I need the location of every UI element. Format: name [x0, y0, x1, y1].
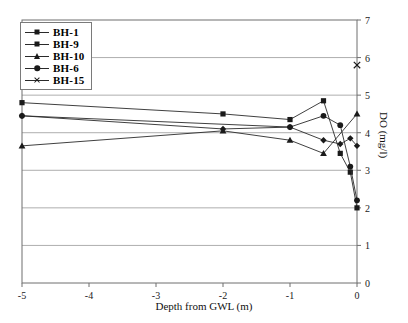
data-point-circle — [347, 164, 353, 170]
data-point-square — [220, 111, 225, 116]
legend-item-bh-15: BH-15 — [25, 74, 85, 86]
series-bh-10 — [19, 111, 361, 156]
legend-marker-diamond-icon — [25, 26, 49, 38]
legend-marker-cross-icon — [25, 74, 49, 86]
series-line — [22, 116, 357, 146]
y-tick-label: 2 — [365, 202, 370, 213]
data-point-circle — [19, 113, 25, 119]
legend-label: BH-9 — [49, 38, 79, 50]
data-point-square — [354, 205, 359, 210]
data-point-square — [19, 100, 24, 105]
data-point-triangle — [354, 111, 361, 117]
legend-label: BH-15 — [49, 74, 85, 86]
legend-marker-circle-icon — [25, 62, 49, 74]
legend-label: BH-6 — [49, 62, 79, 74]
data-point-square — [338, 151, 343, 156]
y-tick-label: 7 — [365, 15, 370, 26]
do-vs-depth-chart: BH-1 BH-9 BH-10 BH-6 BH-15 -5- — [0, 0, 408, 323]
y-tick-label: 3 — [365, 165, 370, 176]
data-point-square — [321, 98, 326, 103]
y-axis-title: DO (mg/l) — [378, 112, 390, 158]
data-point-circle — [337, 122, 343, 128]
legend-item-bh-9: BH-9 — [25, 38, 85, 50]
chart-legend: BH-1 BH-9 BH-10 BH-6 BH-15 — [20, 22, 92, 90]
data-point-circle — [354, 197, 360, 203]
x-axis-title: Depth from GWL (m) — [0, 300, 408, 312]
legend-label: BH-10 — [49, 50, 85, 62]
series-line — [22, 101, 357, 208]
legend-label: BH-1 — [49, 26, 79, 38]
legend-item-bh-6: BH-6 — [25, 62, 85, 74]
data-point-circle — [287, 124, 293, 130]
data-point-circle — [321, 113, 327, 119]
y-tick-label: 0 — [365, 278, 370, 289]
y-tick-label: 6 — [365, 52, 370, 63]
data-point-diamond — [320, 137, 326, 143]
series-line — [22, 116, 357, 201]
legend-marker-square-icon — [25, 38, 49, 50]
series-bh-9 — [19, 98, 359, 210]
y-tick-label: 4 — [365, 127, 370, 138]
legend-item-bh-10: BH-10 — [25, 50, 85, 62]
y-tick-label: 5 — [365, 90, 370, 101]
legend-marker-triangle-icon — [25, 50, 49, 62]
data-point-square — [287, 117, 292, 122]
y-tick-label: 1 — [365, 240, 370, 251]
legend-item-bh-1: BH-1 — [25, 26, 85, 38]
